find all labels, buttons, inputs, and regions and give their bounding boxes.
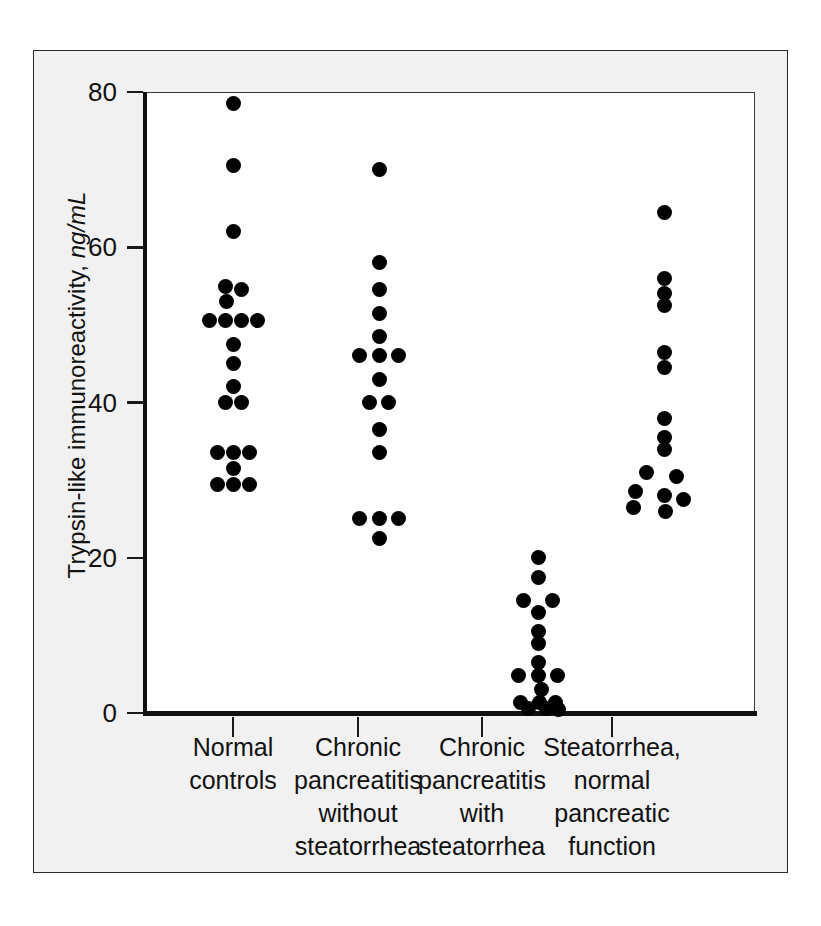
category-label-line: pancreatic bbox=[517, 797, 707, 830]
data-point bbox=[372, 445, 387, 460]
data-point bbox=[657, 345, 672, 360]
y-axis-title-main: Trypsin-like immunoreactivity, bbox=[63, 258, 90, 578]
data-point bbox=[372, 531, 387, 546]
x-axis-line bbox=[143, 711, 757, 716]
data-point bbox=[372, 348, 387, 363]
data-point bbox=[362, 395, 377, 410]
data-point bbox=[381, 395, 396, 410]
data-point bbox=[210, 477, 225, 492]
data-point bbox=[657, 298, 672, 313]
y-axis-tick-label: 80 bbox=[65, 79, 117, 105]
data-point bbox=[658, 504, 673, 519]
data-point bbox=[226, 379, 241, 394]
data-point bbox=[676, 492, 691, 507]
data-point bbox=[242, 477, 257, 492]
data-point bbox=[372, 306, 387, 321]
data-point bbox=[669, 469, 684, 484]
data-point bbox=[531, 550, 546, 565]
data-point bbox=[550, 668, 565, 683]
data-point bbox=[372, 282, 387, 297]
data-point bbox=[226, 96, 241, 111]
data-point bbox=[545, 593, 560, 608]
data-point bbox=[531, 605, 546, 620]
data-point bbox=[628, 484, 643, 499]
data-point bbox=[234, 282, 249, 297]
data-point bbox=[372, 162, 387, 177]
category-label-line: function bbox=[517, 830, 707, 863]
data-point bbox=[657, 442, 672, 457]
x-axis-category-label-4: Steatorrhea,normalpancreaticfunction bbox=[517, 731, 707, 863]
data-point bbox=[639, 465, 654, 480]
data-point bbox=[372, 329, 387, 344]
data-point bbox=[226, 445, 241, 460]
y-axis-tick-label: 0 bbox=[65, 700, 117, 726]
data-point bbox=[372, 422, 387, 437]
data-point bbox=[531, 668, 546, 683]
y-axis-tick bbox=[127, 557, 143, 560]
data-point bbox=[242, 445, 257, 460]
data-point bbox=[516, 593, 531, 608]
data-point bbox=[234, 395, 249, 410]
y-axis-tick bbox=[127, 712, 143, 715]
data-point bbox=[234, 313, 249, 328]
y-axis-title: Trypsin-like immunoreactivity, ng/mL bbox=[63, 125, 91, 645]
category-label-line: normal bbox=[517, 764, 707, 797]
y-axis-title-units: ng/mL bbox=[63, 192, 90, 259]
data-point bbox=[657, 205, 672, 220]
data-point bbox=[218, 313, 233, 328]
data-point bbox=[226, 158, 241, 173]
data-point bbox=[657, 271, 672, 286]
data-point bbox=[218, 395, 233, 410]
y-axis-tick bbox=[127, 246, 143, 249]
category-label-line: Steatorrhea, bbox=[517, 731, 707, 764]
data-point bbox=[226, 477, 241, 492]
data-point bbox=[226, 337, 241, 352]
data-point bbox=[372, 255, 387, 270]
data-point bbox=[372, 372, 387, 387]
data-point bbox=[202, 313, 217, 328]
y-axis-tick bbox=[127, 401, 143, 404]
data-point bbox=[250, 313, 265, 328]
data-point bbox=[657, 360, 672, 375]
y-axis-line bbox=[143, 92, 147, 715]
data-point bbox=[657, 411, 672, 426]
data-point bbox=[218, 279, 233, 294]
data-point bbox=[226, 356, 241, 371]
data-point bbox=[210, 445, 225, 460]
data-point bbox=[521, 701, 536, 716]
y-axis-tick bbox=[127, 91, 143, 94]
data-point bbox=[531, 570, 546, 585]
data-point bbox=[626, 500, 641, 515]
data-point bbox=[372, 511, 387, 526]
data-point bbox=[657, 488, 672, 503]
data-point bbox=[226, 461, 241, 476]
data-point bbox=[531, 636, 546, 651]
data-point bbox=[226, 224, 241, 239]
